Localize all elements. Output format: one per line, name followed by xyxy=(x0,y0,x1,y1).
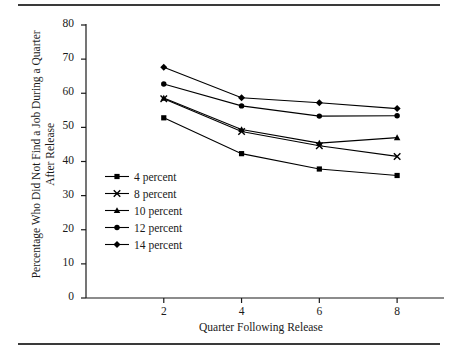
legend-label: 10 percent xyxy=(130,205,182,217)
y-tick-label: 80 xyxy=(48,17,74,29)
y-axis-ticks xyxy=(81,25,86,298)
series-line xyxy=(161,95,401,159)
legend-label: 8 percent xyxy=(130,188,176,200)
series-line xyxy=(160,64,400,112)
x-tick-label: 8 xyxy=(385,305,409,317)
y-tick-label: 70 xyxy=(48,51,74,63)
series-line xyxy=(161,95,401,146)
legend-item: 10 percent xyxy=(104,202,182,219)
y-tick-label: 30 xyxy=(48,188,74,200)
legend-marker-x-icon xyxy=(104,185,130,202)
axis-lines xyxy=(86,24,444,298)
y-tick-label: 0 xyxy=(48,290,74,302)
legend-marker-diamond-icon xyxy=(104,236,130,253)
y-tick-label: 50 xyxy=(48,119,74,131)
chart-legend: 4 percent8 percent10 percent12 percent14… xyxy=(104,168,182,253)
figure-container: Percentage Who Did Not Find a Job During… xyxy=(0,0,458,357)
legend-item: 12 percent xyxy=(104,219,182,236)
y-tick-label: 60 xyxy=(48,85,74,97)
y-tick-label: 20 xyxy=(48,222,74,234)
series-line xyxy=(161,115,400,178)
legend-label: 4 percent xyxy=(130,171,176,183)
legend-label: 12 percent xyxy=(130,222,182,234)
y-tick-label: 40 xyxy=(48,154,74,166)
x-tick-label: 6 xyxy=(307,305,331,317)
x-tick-label: 2 xyxy=(152,305,176,317)
y-tick-label: 10 xyxy=(48,256,74,268)
legend-marker-square-icon xyxy=(104,168,130,185)
legend-item: 14 percent xyxy=(104,236,182,253)
legend-marker-circle-icon xyxy=(104,219,130,236)
legend-item: 4 percent xyxy=(104,168,182,185)
legend-label: 14 percent xyxy=(130,239,182,251)
x-tick-label: 4 xyxy=(230,305,254,317)
legend-item: 8 percent xyxy=(104,185,182,202)
legend-marker-triangle-icon xyxy=(104,202,130,219)
x-axis-ticks xyxy=(164,298,397,303)
